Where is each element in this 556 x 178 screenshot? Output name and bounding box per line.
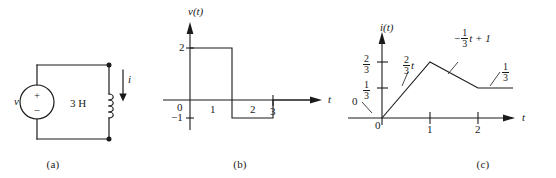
current-arrow-icon (119, 70, 126, 102)
variable-t-segment1: t (411, 60, 414, 71)
zero-label-c: 0 (352, 96, 358, 107)
x-tick-label-1-c: 1 (427, 124, 433, 135)
source-plus-sign: + (34, 90, 40, 101)
y-axis-label-vt: v(t) (188, 6, 203, 17)
fraction-numerator: 2 (403, 55, 410, 65)
fraction-numerator: 1 (502, 62, 509, 72)
source-minus-sign: – (34, 104, 41, 115)
inductor-symbol (109, 94, 113, 118)
fraction-one-third-expr: 1 3 (461, 28, 468, 49)
minus-sign-segment2: − (454, 33, 460, 44)
y-axis-label-it: i(t) (380, 22, 393, 33)
waveform-it (382, 62, 513, 118)
plot-vt (160, 0, 340, 178)
node-dot-top (107, 63, 111, 67)
x-axis-label-t-c: t (522, 112, 525, 123)
y-tick-label-2: 2 (179, 42, 185, 53)
caption-c: (c) (370, 158, 556, 170)
fraction-denominator: 3 (363, 90, 370, 101)
panel-circuit-a: + – v 3 H i (a) (0, 0, 170, 178)
fraction-numerator: 2 (363, 54, 370, 64)
x-tick-label-3: 3 (270, 106, 276, 117)
y-axis-arrow-c (379, 32, 386, 44)
caption-b: (b) (150, 158, 330, 170)
fraction-denominator: 3 (403, 65, 410, 76)
caption-a: (a) (0, 158, 138, 170)
figure-root: + – v 3 H i (a) (0, 0, 556, 178)
leader-zero (362, 102, 372, 113)
annotation-segment2: − 1 3 t + 1 (454, 28, 491, 49)
x-tick-label-2-c: 2 (475, 124, 481, 135)
x-axis-arrow-c (503, 115, 515, 122)
fraction-two-thirds-expr: 2 3 (403, 55, 410, 76)
expression-tail-segment2: t + 1 (469, 33, 490, 44)
x-tick-label-1: 1 (210, 104, 216, 115)
fraction-denominator: 3 (502, 72, 509, 83)
circuit-diagram: + – (0, 0, 170, 178)
panel-plot-b: v(t) t 0 2 −1 1 2 3 (b) (160, 0, 340, 178)
y-tick-label-two-thirds: 2 3 (363, 54, 370, 75)
x-tick-label-2: 2 (250, 104, 256, 115)
leader-segment2 (448, 62, 458, 74)
source-voltage-label: v (14, 96, 19, 107)
leader-segment3 (490, 72, 500, 86)
fraction-numerator: 1 (461, 28, 468, 38)
fraction-denominator: 3 (461, 38, 468, 49)
fraction-two-thirds: 2 3 (363, 54, 370, 75)
annotation-segment3: 1 3 (502, 62, 509, 83)
annotation-segment1: 2 3 t (403, 54, 414, 76)
y-axis-arrow (187, 22, 194, 34)
inductor-value-label: 3 H (70, 98, 86, 109)
fraction-one-third: 1 3 (363, 80, 370, 101)
origin-label-c: 0 (375, 120, 381, 131)
node-dot-bottom (107, 137, 111, 141)
panel-plot-c: i(t) t 0 0 2 3 1 3 1 2 2 3 (330, 0, 556, 178)
y-tick-label-minus1: −1 (171, 112, 183, 123)
fraction-one-third-flat: 1 3 (502, 62, 509, 83)
fraction-denominator: 3 (363, 64, 370, 75)
fraction-numerator: 1 (363, 80, 370, 90)
y-tick-label-one-third: 1 3 (363, 80, 370, 101)
current-label: i (128, 74, 131, 85)
